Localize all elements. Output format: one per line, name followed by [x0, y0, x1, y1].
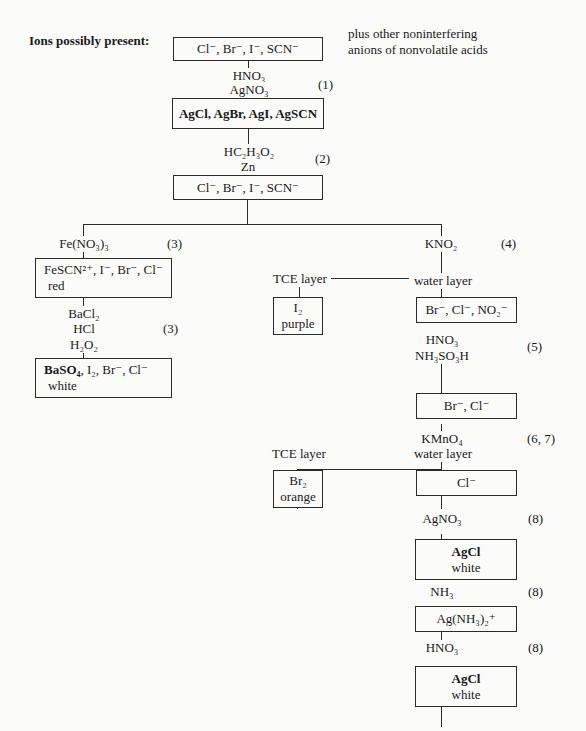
reagent-agno3-8: AgNO₃ — [416, 511, 468, 527]
br-cl-no2-text: Br⁻, Cl⁻, NO₂⁻ — [425, 302, 507, 318]
agcl-box-2: AgCl white — [415, 666, 517, 707]
reagent-hno3-5: HNO₃ — [421, 332, 463, 348]
reagent-agno3-1: AgNO₃ — [222, 82, 276, 98]
agcl-2-formula: AgCl — [452, 671, 481, 687]
start-ions-text: Cl⁻, Br⁻, I⁻, SCN⁻ — [197, 41, 299, 57]
br-cl-text: Br⁻, Cl⁻ — [444, 398, 490, 414]
silver-ammine-box: Ag(NH₃)₂⁺ — [415, 606, 517, 632]
tce-layer-label-2: TCE layer — [268, 446, 330, 462]
bromine-color: orange — [280, 489, 315, 505]
reagent-kmno4: KMnO₄ — [419, 431, 465, 447]
reagent-zinc: Zn — [236, 159, 260, 175]
agcl-1-formula: AgCl — [452, 544, 481, 560]
water-layer-label-1: water layer — [409, 273, 477, 289]
reagent-h2o2: H₂O₂ — [65, 337, 103, 353]
step-number-4: (4) — [501, 236, 516, 252]
step-number-5: (5) — [527, 339, 542, 355]
bromine-formula: Br₂ — [289, 473, 307, 489]
iodine-color: purple — [281, 316, 314, 332]
br-cl-no2-box: Br⁻, Cl⁻, NO₂⁻ — [416, 297, 517, 323]
chloride-box: Cl⁻ — [416, 470, 517, 496]
reagent-bacl2: BaCl₂ — [64, 306, 104, 322]
tce-layer-label-1: TCE layer — [269, 271, 331, 287]
connector — [247, 200, 248, 224]
silver-precipitate-text: AgCl, AgBr, AgI, AgSCN — [179, 106, 317, 122]
reagent-hno3-8: HNO₃ — [420, 640, 464, 656]
reagent-kno2: KNO₂ — [419, 236, 463, 252]
agcl-2-color: white — [452, 687, 481, 703]
baso4-color: white — [44, 378, 77, 394]
note-line-1: plus other noninterfering — [348, 26, 477, 42]
iodine-box: I₂ purple — [273, 297, 323, 335]
redissolved-ions-box: Cl⁻, Br⁻, I⁻, SCN⁻ — [173, 175, 323, 200]
iodine-formula: I₂ — [294, 300, 303, 316]
baso4-box: BaSO₄, I₂, Br⁻, Cl⁻ white — [35, 358, 172, 398]
fescn-box: FeSCN²⁺, I⁻, Br⁻, Cl⁻ red — [35, 258, 172, 298]
redissolved-ions-text: Cl⁻, Br⁻, I⁻, SCN⁻ — [197, 180, 299, 196]
note-line-2: anions of nonvolatile acids — [348, 42, 488, 58]
step-number-6-7: (6, 7) — [527, 431, 555, 447]
ions-present-label: Ions possibly present: — [29, 33, 149, 49]
step-number-3b: (3) — [163, 321, 178, 337]
br-cl-box: Br⁻, Cl⁻ — [416, 393, 517, 419]
agcl-1-color: white — [452, 560, 481, 576]
chloride-text: Cl⁻ — [457, 475, 476, 491]
reagent-sulfamic-acid: NH₃SO₃H — [408, 348, 476, 364]
step-number-8c: (8) — [528, 640, 543, 656]
fescn-color: red — [44, 278, 65, 294]
step-number-2: (2) — [315, 151, 330, 167]
reagent-nh3: NH₃ — [425, 584, 459, 600]
bromine-box: Br₂ orange — [273, 470, 323, 508]
water-layer-label-2: water layer — [409, 446, 477, 462]
silver-ammine-text: Ag(NH₃)₂⁺ — [436, 611, 495, 627]
step-number-3a: (3) — [167, 236, 182, 252]
baso4-rest: , I₂, Br⁻, Cl⁻ — [80, 362, 147, 377]
start-ions-box: Cl⁻, Br⁻, I⁻, SCN⁻ — [173, 37, 323, 61]
connector — [83, 224, 442, 225]
reagent-hcl: HCl — [68, 321, 100, 337]
step-number-1: (1) — [318, 77, 333, 93]
step-number-8b: (8) — [528, 584, 543, 600]
reagent-iron-nitrate: Fe(NO₃)₃ — [56, 236, 112, 252]
agcl-box-1: AgCl white — [415, 539, 517, 580]
step-number-8a: (8) — [528, 511, 543, 527]
silver-precipitate-box: AgCl, AgBr, AgI, AgSCN — [172, 98, 324, 129]
fescn-text: FeSCN²⁺, I⁻, Br⁻, Cl⁻ — [44, 262, 163, 278]
baso4-formula: BaSO₄ — [44, 362, 80, 377]
reagent-acetic-acid: HC₂H₃O₂ — [218, 144, 280, 160]
